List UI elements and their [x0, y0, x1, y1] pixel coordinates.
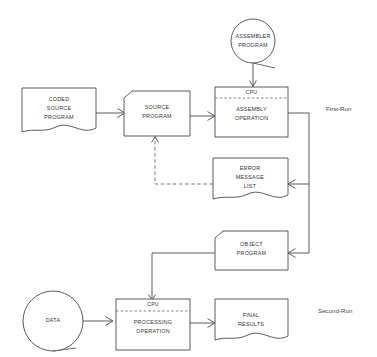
processing-cpu-label: CPU: [147, 301, 159, 307]
annotation-first-run: First-Run: [326, 105, 352, 112]
node-object-program: OBJECT PROGRAM: [215, 231, 288, 270]
source-program-label-1: SOURCE: [145, 104, 170, 110]
node-error-message-list: ERROR MESSAGE LIST: [213, 158, 288, 199]
error-list-label-3: LIST: [244, 183, 257, 189]
connector-data-to-processing: [83, 317, 113, 326]
node-data: DATA: [23, 291, 83, 351]
node-final-results: FINAL RESULTS: [215, 299, 288, 340]
connector-coded-source-to-source: [96, 109, 125, 118]
assembly-operation-label-1: ASSEMBLY: [236, 106, 267, 112]
connector-object-to-processing: [149, 253, 215, 301]
connector-assembly-bus: [288, 113, 309, 257]
source-program-label-2: PROGRAM: [142, 113, 172, 119]
node-assembly-operation: CPU ASSEMBLY OPERATION: [215, 87, 288, 137]
assembly-operation-label-2: OPERATION: [235, 115, 269, 121]
data-label: DATA: [46, 317, 61, 323]
coded-source-label-3: PROGRAM: [44, 114, 74, 120]
coded-source-label-2: SOURCE: [47, 105, 72, 111]
object-program-label-2: PROGRAM: [237, 250, 267, 256]
annotation-second-run: Second-Run: [318, 307, 353, 314]
diagram-canvas: ASSEMBLER PROGRAM CODED SOURCE PROGRAM S…: [0, 0, 377, 357]
assembler-program-label-2: PROGRAM: [238, 42, 268, 48]
node-coded-source-program: CODED SOURCE PROGRAM: [22, 88, 96, 132]
final-results-label-2: RESULTS: [238, 321, 264, 327]
assembly-cpu-label: CPU: [246, 89, 258, 95]
node-source-program: SOURCE PROGRAM: [124, 91, 190, 136]
connector-error-feedback-dashed: [152, 137, 213, 185]
processing-operation-label-1: PROCESSING: [134, 319, 172, 325]
connector-source-to-assembly: [190, 112, 215, 121]
error-list-label-2: MESSAGE: [236, 174, 265, 180]
processing-operation-label-2: OPERATION: [136, 328, 170, 334]
object-program-label-1: OBJECT: [240, 241, 263, 247]
coded-source-label-1: CODED: [49, 96, 70, 102]
error-list-label-1: ERROR: [240, 165, 261, 171]
connector-processing-to-final: [190, 319, 215, 328]
assembler-program-label-1: ASSEMBLER: [235, 33, 270, 39]
node-assembler-program: ASSEMBLER PROGRAM: [231, 19, 275, 68]
final-results-label-1: FINAL: [243, 312, 260, 318]
node-processing-operation: CPU PROCESSING OPERATION: [116, 299, 190, 350]
flowchart-diagram: ASSEMBLER PROGRAM CODED SOURCE PROGRAM S…: [0, 0, 377, 357]
